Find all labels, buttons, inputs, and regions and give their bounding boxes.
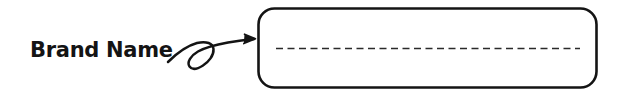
brand-name-label: Brand Name — [30, 38, 173, 62]
annotated-brand-name-diagram: Brand Name — [0, 0, 620, 95]
diagram-canvas: Brand Name — [0, 0, 620, 95]
